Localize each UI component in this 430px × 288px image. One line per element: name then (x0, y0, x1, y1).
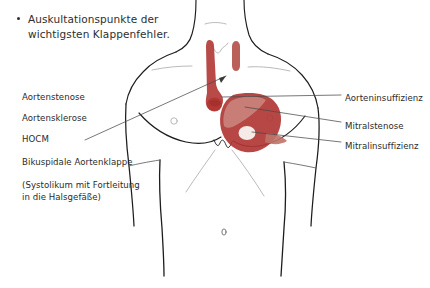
aortic-strip-short-marker (232, 41, 240, 71)
armpit-left (129, 160, 160, 166)
navel (222, 229, 226, 235)
leader-left-aortic (85, 76, 226, 140)
ribcage-left (186, 150, 215, 192)
waist-right (281, 162, 286, 276)
nipple-left (171, 118, 177, 124)
collar-line-right (248, 67, 290, 71)
label-aorteninsuffizienz: Aorteninsuffizienz (345, 93, 423, 104)
apex-highlight-marker (239, 126, 256, 140)
armpit-right (284, 162, 316, 168)
label-mitralstenose: Mitralstenose (345, 121, 404, 132)
label-aortensklerose: Aortensklerose (22, 113, 87, 124)
note-systolikum-line-1: (Systolikum mit Fortleitung (22, 180, 140, 191)
title-line-2: wichtigsten Klappenfehler. (17, 27, 202, 42)
waist-left (160, 160, 164, 276)
title-bullet: Auskultationspunkte der wichtigsten Klap… (17, 12, 202, 42)
label-hocm: HOCM (22, 134, 49, 145)
shoulder-left (126, 52, 176, 104)
suprasternal-notch (205, 23, 226, 25)
neck-right-contour (244, 0, 268, 54)
label-mitralinsuffizienz: Mitralinsuffizienz (345, 141, 419, 152)
bullet-dot (17, 17, 20, 20)
leader-left-arrowhead (219, 76, 226, 83)
ribcage-right (232, 150, 264, 196)
label-bikuspidale-aortenklappe: Bikuspidale Aortenklappe (22, 157, 133, 168)
shoulder-right (268, 54, 318, 108)
throat-dip (212, 43, 228, 53)
breast-fold-left (139, 113, 221, 143)
note-systolikum-line-2: in die Halsgefäße) (22, 192, 101, 203)
label-aortenstenose: Aortenstenose (22, 92, 85, 103)
slide-canvas: Auskultationspunkte der wichtigsten Klap… (0, 0, 430, 288)
title-line-1: Auskultationspunkte der (17, 12, 202, 27)
collar-line-left (152, 66, 192, 70)
